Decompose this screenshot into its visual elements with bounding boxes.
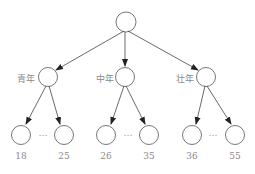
- leaf-label-25: 25: [58, 151, 69, 161]
- leaf-node-18: [12, 126, 31, 145]
- edge-prime-36: [196, 86, 205, 124]
- edge-middle-26: [111, 86, 124, 124]
- leaf-node-55: [226, 126, 245, 145]
- leaf-label-26: 26: [100, 151, 111, 161]
- group-node-youth: [39, 68, 58, 87]
- leaf-node-25: [55, 126, 74, 145]
- leaf-label-18: 18: [15, 151, 26, 161]
- edge-middle-35: [126, 86, 145, 124]
- group-label-youth: 青年: [17, 72, 35, 85]
- tree-diagram: [0, 0, 255, 174]
- edge-root-youth: [56, 31, 124, 70]
- group-label-middle: 中年: [96, 72, 114, 85]
- ellipsis-middle: …: [124, 128, 133, 138]
- root-node: [116, 12, 136, 32]
- edge-root-prime: [128, 31, 198, 70]
- edge-youth-18: [26, 86, 46, 124]
- edge-youth-25: [49, 86, 60, 124]
- leaf-node-35: [140, 126, 159, 145]
- ellipsis-prime: …: [209, 128, 218, 138]
- edge-prime-55: [207, 86, 231, 124]
- group-label-prime: 壮年: [176, 72, 194, 85]
- leaf-node-26: [97, 126, 116, 145]
- leaf-label-55: 55: [229, 151, 240, 161]
- ellipsis-youth: …: [39, 128, 48, 138]
- group-node-middle: [116, 68, 135, 87]
- leaf-node-36: [183, 126, 202, 145]
- leaf-label-36: 36: [186, 151, 197, 161]
- leaf-label-35: 35: [143, 151, 154, 161]
- group-node-prime: [197, 68, 216, 87]
